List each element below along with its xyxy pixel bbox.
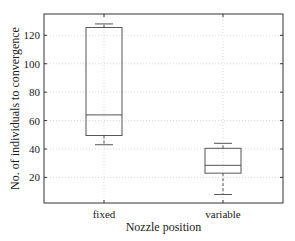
x-tick-label: fixed: [93, 208, 116, 220]
y-tick-label: 120: [24, 29, 41, 41]
y-axis-ticks: 20406080100120: [24, 29, 284, 183]
y-tick-label: 40: [29, 143, 41, 155]
x-tick-label: variable: [205, 208, 241, 220]
box-variable: [205, 143, 241, 194]
box-plot-chart: 20406080100120 fixedvariable Nozzle posi…: [0, 0, 295, 241]
x-axis-ticks: fixedvariable: [93, 14, 241, 220]
y-tick-label: 60: [29, 115, 41, 127]
y-tick-label: 80: [29, 86, 41, 98]
grid-lines: [44, 14, 283, 203]
plot-frame: [44, 14, 283, 203]
y-tick-label: 100: [24, 58, 41, 70]
y-tick-label: 20: [29, 171, 41, 183]
box-series: [86, 24, 241, 195]
y-axis-label: No. of individuals to convergence: [8, 27, 22, 190]
box-fixed: [86, 24, 122, 145]
x-axis-label: Nozzle position: [126, 220, 202, 234]
